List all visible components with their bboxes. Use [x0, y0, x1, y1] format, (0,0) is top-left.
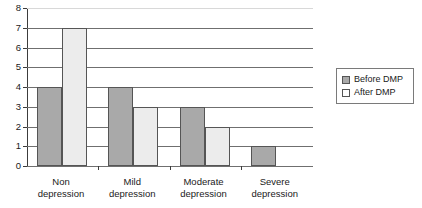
- plot-area: 012345678 NondepressionMilddepressionMod…: [27, 8, 313, 166]
- y-axis-tick-mark: [23, 146, 27, 147]
- bar-group: [242, 8, 313, 166]
- legend-item-before: Before DMP: [342, 73, 408, 86]
- y-axis-tick-label: 3: [16, 102, 21, 112]
- bars-layer: [28, 8, 313, 166]
- y-axis-tick-mark: [23, 28, 27, 29]
- bar-before-dmp: [180, 107, 205, 166]
- category-label-line2: depression: [180, 188, 226, 200]
- bar-before-dmp: [108, 87, 133, 166]
- bar-before-dmp: [251, 146, 276, 166]
- x-axis-tick-mark: [170, 166, 171, 170]
- x-axis-category-label: Severedepression: [252, 176, 298, 199]
- y-axis-tick-label: 7: [16, 23, 21, 33]
- category-label-line1: Moderate: [183, 176, 223, 187]
- y-axis-tick-label: 1: [16, 142, 21, 152]
- y-axis-tick-mark: [23, 48, 27, 49]
- y-axis-tick-mark: [23, 87, 27, 88]
- category-label-line1: Severe: [260, 176, 290, 187]
- y-axis-tick-label: 5: [16, 63, 21, 73]
- filled-gray-square-icon: [342, 76, 350, 84]
- bar-after-dmp: [62, 28, 87, 166]
- bar-chart: 012345678 NondepressionMilddepressionMod…: [0, 0, 422, 208]
- x-axis-category-label: Moderatedepression: [180, 176, 226, 199]
- y-axis-tick-mark: [23, 127, 27, 128]
- y-axis-tick-mark: [23, 67, 27, 68]
- x-axis-category-label: Milddepression: [109, 176, 155, 199]
- bar-before-dmp: [37, 87, 62, 166]
- y-axis-tick-label: 2: [16, 122, 21, 132]
- category-label-line1: Non: [52, 176, 69, 187]
- y-axis-tick-label: 8: [16, 3, 21, 13]
- category-label-line1: Mild: [124, 176, 141, 187]
- y-axis-tick-mark: [23, 166, 27, 167]
- x-axis-category-label: Nondepression: [38, 176, 84, 199]
- legend-item-after: After DMP: [342, 86, 408, 99]
- y-axis-tick-label: 4: [16, 82, 21, 92]
- empty-white-square-icon: [342, 89, 350, 97]
- y-axis-tick-label: 6: [16, 43, 21, 53]
- bar-group: [28, 8, 99, 166]
- y-axis-tick-mark: [23, 107, 27, 108]
- bar-after-dmp: [133, 107, 158, 166]
- bar-group: [99, 8, 170, 166]
- legend-item-label: Before DMP: [354, 75, 403, 84]
- x-axis-tick-mark: [98, 166, 99, 170]
- legend-item-label: After DMP: [354, 88, 396, 97]
- y-axis-tick-label: 0: [16, 161, 21, 171]
- legend: Before DMP After DMP: [336, 68, 414, 104]
- category-label-line2: depression: [38, 188, 84, 200]
- category-label-line2: depression: [109, 188, 155, 200]
- bar-after-dmp: [205, 127, 230, 167]
- category-label-line2: depression: [252, 188, 298, 200]
- bar-group: [171, 8, 242, 166]
- x-axis-tick-mark: [241, 166, 242, 170]
- y-axis-tick-mark: [23, 8, 27, 9]
